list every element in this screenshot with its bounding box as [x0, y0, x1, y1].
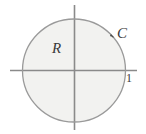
figure-canvas: R C 1: [0, 0, 146, 134]
label-region-r: R: [51, 40, 61, 56]
label-curve-c: C: [117, 25, 128, 41]
math-figure: R C 1: [0, 0, 146, 134]
label-unit-one: 1: [126, 71, 132, 85]
